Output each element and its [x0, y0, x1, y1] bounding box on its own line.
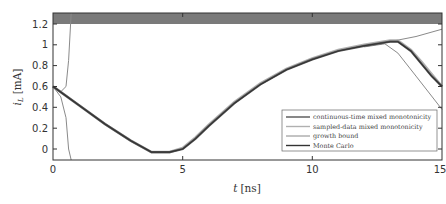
legend: continuous-time mixed monotonicity sampl…: [282, 110, 437, 151]
y-tick-label: 0.6: [32, 81, 48, 92]
y-tick-label: 0.4: [32, 102, 48, 113]
x-tick-label: 5: [180, 164, 186, 175]
series-envelope-lower: [364, 44, 442, 110]
legend-item-label: continuous-time mixed monotonicity: [313, 113, 432, 121]
x-axis-label: t[ns]: [233, 182, 261, 194]
y-tick-label: 1: [42, 39, 48, 50]
y-tick-label: 0.8: [32, 60, 48, 71]
y-tick-label: 0: [42, 144, 48, 155]
x-tick-label: 15: [434, 164, 446, 175]
x-tick-label: 10: [306, 164, 319, 175]
shaded-band: [53, 13, 442, 24]
y-tick-label: 1.2: [32, 19, 48, 30]
legend-item-label: growth bound: [313, 132, 358, 140]
y-tick-label: 0.2: [32, 123, 48, 134]
chart: 0 0.2 0.4 0.6 0.8 1 1.2 0 5 10 15 t[ns] …: [0, 0, 446, 204]
y-axis-label: iL[mA]: [11, 69, 25, 106]
legend-item-label: Monte Carlo: [313, 142, 354, 150]
x-tick-label: 0: [50, 164, 56, 175]
legend-item-label: sampled-data mixed monotonicity: [313, 123, 423, 131]
series-growth-bound-upper: [53, 13, 71, 92]
